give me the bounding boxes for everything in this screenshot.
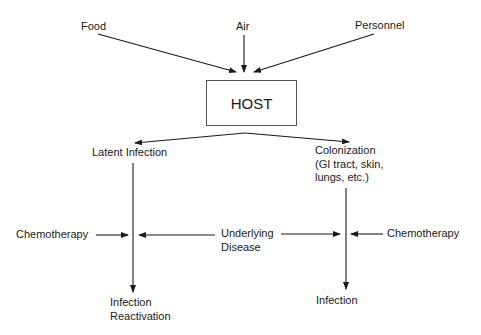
arrow-host-to-latent — [135, 133, 245, 143]
infection-label: Infection — [316, 294, 358, 308]
latent-infection-label: Latent Infection — [92, 146, 167, 160]
arrow-host-to-colonization — [245, 133, 349, 142]
source-food: Food — [81, 20, 106, 34]
diagram-arrows — [0, 0, 481, 335]
chemotherapy-left-label: Chemotherapy — [16, 228, 88, 242]
underlying-disease-label: Underlying Disease — [221, 227, 274, 254]
source-personnel: Personnel — [355, 19, 405, 33]
chemotherapy-right-label: Chemotherapy — [387, 227, 459, 241]
arrow-personnel-to-host — [254, 34, 374, 72]
arrow-food-to-host — [98, 34, 236, 72]
source-air: Air — [236, 20, 249, 34]
host-box: HOST — [206, 80, 297, 126]
host-label: HOST — [231, 95, 273, 112]
colonization-label: Colonization (GI tract, skin, lungs, etc… — [315, 144, 383, 185]
infection-reactivation-label: Infection Reactivation — [110, 296, 171, 323]
